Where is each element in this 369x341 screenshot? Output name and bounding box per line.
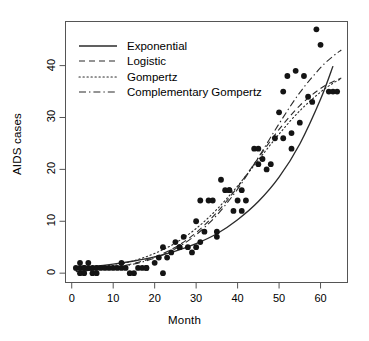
x-tick-label: 30 <box>181 292 211 304</box>
x-axis-title: Month <box>0 314 369 326</box>
legend-line-icon <box>78 55 118 67</box>
y-tick-label: 30 <box>45 105 57 127</box>
data-point <box>301 73 307 79</box>
data-point <box>85 260 91 266</box>
legend-label: Logistic <box>127 55 166 67</box>
data-point <box>160 244 166 250</box>
data-point <box>152 260 158 266</box>
aids-cases-chart-figure: 0102030405060 010203040 Month AIDS cases… <box>0 0 369 341</box>
data-point <box>177 244 183 250</box>
data-point <box>289 130 295 136</box>
x-tick-label: 20 <box>140 292 170 304</box>
data-point <box>309 99 315 105</box>
legend-item-dotted: Gompertz <box>78 69 262 85</box>
legend-label: Exponential <box>127 40 187 52</box>
data-point <box>260 156 266 162</box>
x-tick-label: 50 <box>264 292 294 304</box>
data-point <box>189 250 195 256</box>
x-axis-ticks <box>72 283 321 289</box>
data-point <box>255 161 261 167</box>
data-point <box>231 208 237 214</box>
data-point <box>119 260 125 266</box>
curve-dashed <box>76 78 341 271</box>
legend-item-solid: Exponential <box>78 38 262 54</box>
legend-item-dashdot: Complementary Gompertz <box>78 85 262 101</box>
y-tick-label: 20 <box>45 157 57 179</box>
data-point <box>123 265 129 271</box>
data-point <box>293 68 299 74</box>
data-point <box>197 198 203 204</box>
data-point <box>131 270 137 276</box>
legend-line-icon <box>78 40 118 52</box>
data-point <box>334 89 340 95</box>
data-point <box>284 73 290 79</box>
data-point <box>160 270 166 276</box>
data-point <box>268 161 274 167</box>
y-tick-label: 40 <box>45 54 57 76</box>
data-point <box>289 146 295 152</box>
data-point <box>193 244 199 250</box>
x-tick-label: 0 <box>57 292 87 304</box>
data-point <box>202 229 208 235</box>
data-point <box>243 198 249 204</box>
chart-legend: ExponentialLogisticGompertzComplementary… <box>78 38 262 100</box>
data-point <box>193 218 199 224</box>
data-point <box>143 265 149 271</box>
data-point <box>226 187 232 193</box>
data-point <box>280 89 286 95</box>
data-point <box>264 166 270 172</box>
legend-line-icon <box>78 71 118 83</box>
data-point <box>197 239 203 245</box>
curve-dotted <box>76 79 341 271</box>
data-point <box>181 234 187 240</box>
data-point <box>255 146 261 152</box>
data-point <box>210 198 216 204</box>
x-tick-label: 10 <box>98 292 128 304</box>
data-point <box>185 244 191 250</box>
data-point <box>214 229 220 235</box>
data-point <box>297 120 303 126</box>
legend-line-icon <box>78 86 118 98</box>
y-axis-ticks <box>60 66 66 274</box>
data-point <box>94 270 100 276</box>
data-point <box>77 260 83 266</box>
data-point <box>168 250 174 256</box>
data-point <box>318 42 324 48</box>
data-point <box>156 255 162 261</box>
data-point <box>235 198 241 204</box>
data-point <box>164 255 170 261</box>
data-point <box>314 26 320 32</box>
legend-item-dashed: Logistic <box>78 54 262 70</box>
data-point <box>81 270 87 276</box>
data-point <box>280 135 286 141</box>
x-tick-label: 40 <box>223 292 253 304</box>
y-axis-title: AIDS cases <box>11 89 23 199</box>
legend-label: Gompertz <box>127 71 178 83</box>
legend-label: Complementary Gompertz <box>127 86 262 98</box>
data-point <box>173 239 179 245</box>
data-point <box>239 187 245 193</box>
y-tick-label: 10 <box>45 209 57 231</box>
data-point <box>276 109 282 115</box>
x-tick-label: 60 <box>306 292 336 304</box>
data-point <box>305 94 311 100</box>
data-point <box>218 177 224 183</box>
data-point <box>272 135 278 141</box>
y-tick-label: 0 <box>45 261 57 283</box>
data-point <box>214 234 220 240</box>
data-point <box>239 208 245 214</box>
